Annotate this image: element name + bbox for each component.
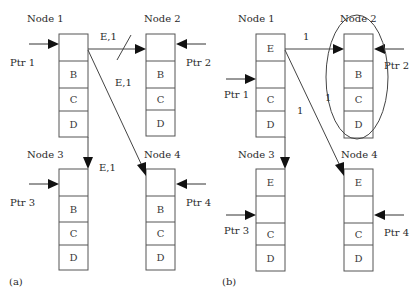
edge-label: E,1 (99, 162, 116, 173)
panel-b: Node 1 E C D Ptr 1 Node 2 B C D (222, 13, 409, 287)
edge-label: E,1 (100, 31, 117, 42)
pointer-arrow-icon (48, 39, 59, 49)
pointer-arrow-icon (374, 210, 385, 220)
edge-node1-node2-b: 1 (285, 31, 344, 54)
edge-label: E,1 (115, 77, 132, 88)
pointer-label: Ptr 4 (384, 227, 409, 238)
pointer-label: Ptr 4 (186, 197, 211, 208)
node-title: Node 3 (238, 149, 275, 160)
edge-node1-node3-a: E,1 (83, 137, 116, 173)
edge-label: 1 (297, 105, 303, 116)
node-1-a: Node 1 B C D Ptr 1 (10, 13, 88, 137)
pointer-arrow-icon (245, 210, 256, 220)
pointer-arrow-icon (48, 179, 59, 189)
node-3-b: Node 3 E C D Ptr 3 (224, 149, 285, 271)
cell: C (157, 228, 165, 239)
edge-node1-node4-b: 1 (285, 50, 344, 176)
node-4-a: Node 4 B C D Ptr 4 (144, 149, 211, 270)
pointer-label: Ptr 1 (224, 89, 249, 100)
edge-arrow-icon (333, 44, 344, 54)
cell: E (267, 43, 274, 54)
cell: D (69, 252, 77, 263)
node-4-b: Node 4 E C D Ptr 4 (341, 149, 409, 271)
node-title: Node 1 (27, 13, 64, 24)
cell: D (354, 119, 362, 130)
cell: B (157, 69, 164, 80)
edge-node1-node2-a: E,1 (88, 31, 146, 60)
node-title: Node 3 (27, 149, 64, 160)
edge-arrow-icon (135, 44, 146, 54)
edge-node1-node4-a: E,1 (88, 50, 146, 176)
edge-arrow-icon (83, 157, 93, 169)
cell: C (355, 229, 363, 240)
node-2-b: Node 2 B C D Ptr 2 (326, 13, 409, 139)
cell: C (70, 228, 78, 239)
panel-caption: (a) (9, 276, 23, 287)
cell: C (267, 229, 275, 240)
diagram-canvas: Node 1 B C D Ptr 1 Node 2 B C D (0, 0, 417, 297)
panel-caption: (b) (222, 276, 236, 287)
cell: C (267, 94, 275, 105)
cell: D (156, 118, 164, 129)
node-2-a: Node 2 B C D Ptr 2 (144, 13, 211, 136)
pointer-arrow-icon (176, 179, 187, 189)
panel-a: Node 1 B C D Ptr 1 Node 2 B C D (9, 13, 211, 287)
cell: B (157, 204, 164, 215)
cell: C (157, 94, 165, 105)
cell: D (69, 119, 77, 130)
node-title: Node 4 (144, 149, 181, 160)
node-title: Node 1 (238, 13, 275, 24)
cell: D (156, 252, 164, 263)
cell: B (355, 69, 362, 80)
node-3-a: Node 3 B C D Ptr 3 (10, 149, 88, 270)
blocked-slash-icon (117, 35, 131, 60)
ellipse-annotation: 1 (325, 92, 331, 103)
pointer-arrow-icon (245, 74, 256, 84)
cell: B (70, 204, 77, 215)
cell: C (70, 94, 78, 105)
pointer-label: Ptr 3 (224, 225, 249, 236)
edge-label: 1 (303, 31, 309, 42)
pointer-arrow-icon (176, 39, 187, 49)
cell: D (266, 253, 274, 264)
node-1-b: Node 1 E C D Ptr 1 (224, 13, 285, 137)
cell: E (267, 177, 274, 188)
pointer-label: Ptr 2 (186, 57, 211, 68)
cell: D (354, 253, 362, 264)
cell: E (355, 177, 362, 188)
cell: D (266, 119, 274, 130)
pointer-label: Ptr 1 (10, 57, 35, 68)
cell: B (70, 69, 77, 80)
edge-node1-node3-b (280, 137, 290, 169)
node-title: Node 2 (144, 13, 181, 24)
node-title: Node 4 (341, 149, 378, 160)
edge-arrow-icon (137, 162, 146, 176)
edge-arrow-icon (280, 157, 290, 169)
edge-arrow-icon (335, 162, 344, 176)
pointer-label: Ptr 3 (10, 197, 35, 208)
cell: C (355, 94, 363, 105)
